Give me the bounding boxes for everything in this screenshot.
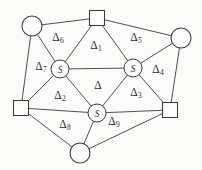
delta-subscript: 4	[160, 68, 164, 77]
region-label-d7: Δ7	[35, 61, 47, 74]
graph-edge	[22, 35, 31, 101]
graph-edge	[65, 24, 93, 62]
steiner-node-label: S	[58, 65, 63, 75]
region-label-d8: Δ8	[59, 119, 71, 132]
circle-node-top-left[interactable]	[22, 16, 42, 36]
graph-edge	[101, 24, 128, 61]
region-label-d9: Δ9	[108, 116, 120, 129]
delta-subscript: 5	[138, 36, 142, 45]
graph-edge	[65, 76, 91, 107]
steiner-node-left[interactable]: S	[51, 60, 69, 78]
delta-symbol: Δ	[130, 31, 137, 43]
graph-edge	[105, 110, 163, 112]
steiner-node-label: S	[131, 64, 136, 74]
square-node-left[interactable]	[14, 101, 29, 116]
delta-symbol: Δ	[54, 89, 61, 101]
region-label-d0: Δ	[94, 80, 101, 92]
diagram-canvas: SSS Δ1Δ2Δ3Δ4Δ5Δ6Δ7Δ8Δ9Δ	[0, 0, 202, 170]
graph-edge	[140, 43, 173, 63]
region-label-d1: Δ1	[90, 40, 102, 53]
region-label-d2: Δ2	[54, 90, 66, 103]
graph-edge	[69, 68, 125, 69]
graph-edge	[41, 19, 90, 25]
delta-subscript: 8	[67, 123, 71, 132]
square-node-outline	[90, 11, 105, 26]
steiner-node-right[interactable]: S	[124, 59, 142, 77]
region-label-d3: Δ3	[130, 87, 142, 100]
graph-edge	[28, 108, 89, 112]
delta-symbol: Δ	[94, 79, 101, 91]
delta-subscript: 7	[43, 65, 47, 74]
region-label-d4: Δ4	[152, 64, 164, 77]
delta-symbol: Δ	[35, 60, 42, 72]
graph-edge	[26, 75, 54, 103]
circle-node-top-right[interactable]	[171, 28, 191, 48]
delta-subscript: 6	[60, 36, 64, 45]
nodes-group: SSS	[14, 11, 192, 164]
square-node-outline	[14, 101, 29, 116]
graph-edge	[102, 75, 127, 107]
circle-node-bottom[interactable]	[70, 143, 90, 163]
delta-symbol: Δ	[152, 63, 159, 75]
circle-node-outline	[22, 16, 42, 36]
square-node-right[interactable]	[163, 103, 178, 118]
steiner-node-bottom-center[interactable]: S	[88, 104, 106, 122]
delta-subscript: 2	[62, 94, 66, 103]
delta-symbol: Δ	[90, 39, 97, 51]
circle-node-outline	[70, 143, 90, 163]
delta-symbol: Δ	[59, 118, 66, 130]
delta-symbol: Δ	[108, 115, 115, 127]
graph-edge	[84, 121, 94, 144]
graph-edge	[171, 47, 180, 103]
region-label-d5: Δ5	[130, 32, 142, 45]
region-label-d6: Δ6	[52, 32, 64, 45]
delta-symbol: Δ	[130, 86, 137, 98]
graph-edge	[139, 74, 166, 104]
circle-node-outline	[171, 28, 191, 48]
delta-symbol: Δ	[52, 31, 59, 43]
square-node-outline	[163, 103, 178, 118]
delta-subscript: 1	[98, 44, 102, 53]
square-node-top[interactable]	[90, 11, 105, 26]
delta-subscript: 9	[116, 120, 120, 129]
delta-subscript: 3	[138, 91, 142, 100]
steiner-node-label: S	[95, 109, 100, 119]
